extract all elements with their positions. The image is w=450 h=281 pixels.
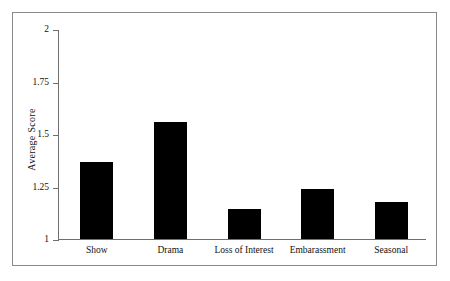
y-axis-title-text: Average Score <box>26 108 37 170</box>
y-axis-tick-mark <box>53 135 59 136</box>
y-axis-tick-label: 2 <box>44 25 49 35</box>
y-axis-tick-label: 1.25 <box>32 183 49 193</box>
y-axis-tick-mark <box>53 83 59 84</box>
chart-figure: Average Score 11.251.51.752 ShowDramaLos… <box>12 12 437 266</box>
bar <box>154 122 187 239</box>
y-axis-tick-label: 1 <box>44 235 49 245</box>
x-axis-line <box>58 239 426 240</box>
y-axis-tick-mark <box>53 240 59 241</box>
bar <box>228 209 261 240</box>
y-axis-tick-label: 1.5 <box>37 130 49 140</box>
x-axis-tick-label: Embarassment <box>290 246 346 256</box>
bar <box>301 189 334 239</box>
x-axis-tick-label: Loss of Interest <box>214 246 273 256</box>
bar <box>375 202 408 239</box>
y-axis-tick-mark <box>53 188 59 189</box>
bar <box>80 162 113 239</box>
x-axis-tick-label: Show <box>86 246 108 256</box>
y-axis-tick-label: 1.75 <box>32 78 49 88</box>
x-axis-tick-label: Seasonal <box>374 246 408 256</box>
plot-area: 11.251.51.752 ShowDramaLoss of InterestE… <box>58 30 426 240</box>
y-axis-tick-mark <box>53 30 59 31</box>
x-axis-tick-label: Drama <box>157 246 183 256</box>
